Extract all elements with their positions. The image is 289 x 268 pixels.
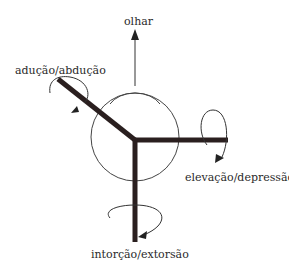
adduction-axis (58, 79, 135, 140)
adduction-abduction-label: adução/abdução (15, 65, 106, 76)
intorsion-extorsion-label: intorção/extorsão (91, 249, 189, 260)
cornea-arc (110, 93, 160, 104)
gaze-arrow (131, 29, 139, 86)
elevation-rotation-arrow-icon (201, 110, 227, 163)
diagram-graphic (0, 0, 289, 268)
eye-rotation-axes-diagram: olhar adução/abdução elevação/depressão … (0, 0, 289, 268)
elevation-depression-label: elevação/depressão (185, 172, 289, 183)
adduction-rotation-arrow-icon (50, 77, 88, 113)
gaze-label: olhar (124, 16, 153, 27)
rotation-axes (58, 79, 228, 242)
